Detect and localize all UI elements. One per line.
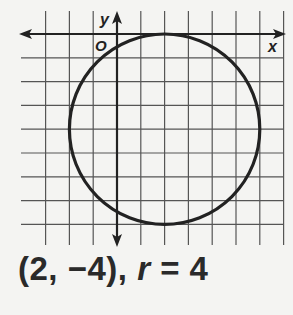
x-axis-label: x (267, 38, 278, 55)
grid-lines (21, 11, 284, 245)
y-axis-label: y (99, 11, 110, 28)
circle-equation-caption: (2, −4), r = 4 (18, 250, 208, 288)
radius-text: = 4 (150, 250, 208, 287)
center-text: (2, −4), (18, 250, 137, 287)
origin-label: O (95, 37, 107, 54)
radius-symbol: r (137, 250, 150, 287)
coordinate-plane: y x O (0, 0, 293, 250)
